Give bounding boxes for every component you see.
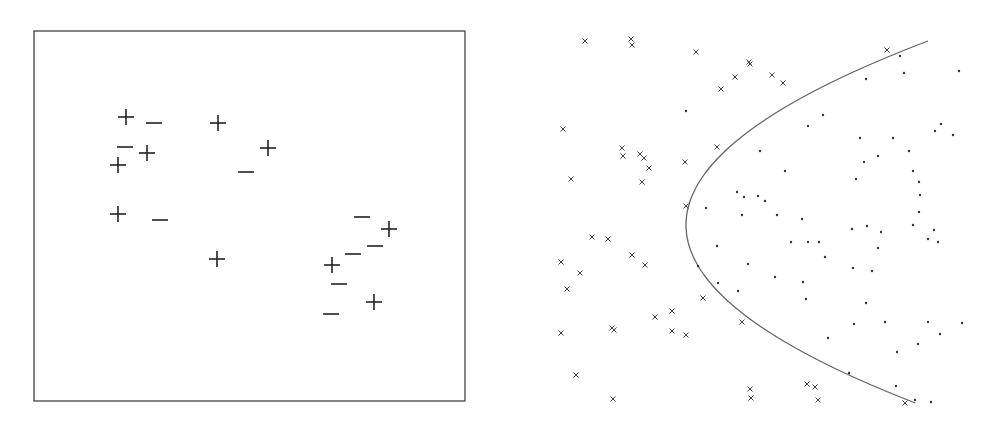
dot-marker [697, 265, 699, 267]
decision-boundary-curve [686, 41, 928, 403]
dot-marker [743, 196, 745, 198]
dot-marker [824, 256, 826, 258]
x-marker [574, 373, 579, 378]
dot-marker [952, 134, 954, 136]
plus-marker [139, 145, 155, 161]
x-marker [816, 398, 821, 403]
plus-marker [324, 257, 340, 273]
plus-marker [110, 206, 126, 222]
dot-marker [877, 155, 879, 157]
x-marker [748, 62, 753, 67]
x-marker [701, 296, 706, 301]
dot-marker [927, 321, 929, 323]
dot-marker [908, 150, 910, 152]
dot-marker [939, 333, 941, 335]
x-marker [683, 160, 688, 165]
x-marker [684, 204, 689, 209]
x-marker [630, 43, 635, 48]
dot-marker [807, 241, 809, 243]
dot-marker [914, 399, 916, 401]
dot-marker [912, 224, 914, 226]
x-marker [561, 127, 566, 132]
dot-marker [807, 125, 809, 127]
plus-marker [209, 251, 225, 267]
x-marker [621, 154, 626, 159]
dot-marker [705, 207, 707, 209]
dot-marker [716, 245, 718, 247]
x-marker [670, 329, 675, 334]
x-marker [642, 156, 647, 161]
x-marker [612, 328, 617, 333]
dot-marker [717, 282, 719, 284]
dot-marker [933, 229, 935, 231]
x-marker [583, 39, 588, 44]
dot-marker [855, 178, 857, 180]
dot-marker [940, 123, 942, 125]
dot-marker [802, 281, 804, 283]
x-marker [749, 396, 754, 401]
x-marker [805, 382, 810, 387]
x-marker [629, 37, 634, 42]
x-marker [565, 287, 570, 292]
dot-marker [776, 214, 778, 216]
dot-marker [865, 302, 867, 304]
dot-marker [927, 238, 929, 240]
x-marker [748, 387, 753, 392]
dot-marker [790, 241, 792, 243]
dot-marker [934, 130, 936, 132]
x-marker [611, 397, 616, 402]
x-marker [620, 146, 625, 151]
x-marker [813, 385, 818, 390]
x-marker [740, 320, 745, 325]
x-marker [719, 87, 724, 92]
x-marker [670, 309, 675, 314]
plot-frame [34, 31, 465, 401]
x-marker [684, 333, 689, 338]
dot-marker [899, 55, 901, 57]
x-marker [903, 401, 908, 406]
dot-marker [827, 337, 829, 339]
plus-marker [118, 109, 134, 125]
x-marker [559, 260, 564, 265]
x-marker [781, 81, 786, 86]
plus-marker [110, 157, 126, 173]
dot-marker [851, 228, 853, 230]
dot-marker [848, 372, 850, 374]
decision-boundary-plot [500, 0, 1008, 421]
plus-marker [366, 294, 382, 310]
plus-marker [381, 221, 397, 237]
dot-marker [741, 214, 743, 216]
dot-marker [917, 343, 919, 345]
dot-marker [937, 241, 939, 243]
dot-marker [774, 276, 776, 278]
dot-marker [818, 241, 820, 243]
dot-marker [958, 70, 960, 72]
dot-marker [759, 150, 761, 152]
dot-marker [961, 322, 963, 324]
x-marker [643, 263, 648, 268]
x-marker [733, 75, 738, 80]
dot-marker [871, 270, 873, 272]
x-marker [653, 315, 658, 320]
dot-marker [865, 78, 867, 80]
left-plot-panel [0, 0, 500, 421]
x-marker [885, 48, 890, 53]
dot-marker [737, 290, 739, 292]
dot-marker [912, 170, 914, 172]
dot-marker [805, 298, 807, 300]
dot-marker [880, 231, 882, 233]
x-marker [590, 235, 595, 240]
x-marker [715, 145, 720, 150]
dot-marker [918, 181, 920, 183]
dot-marker [685, 110, 687, 112]
dot-marker [919, 194, 921, 196]
x-marker [630, 253, 635, 258]
dot-marker [866, 225, 868, 227]
dot-marker [764, 200, 766, 202]
plus-marker [260, 140, 276, 156]
dot-marker [853, 323, 855, 325]
dot-marker [747, 263, 749, 265]
dot-marker [903, 72, 905, 74]
dot-marker [757, 195, 759, 197]
dot-marker [859, 137, 861, 139]
